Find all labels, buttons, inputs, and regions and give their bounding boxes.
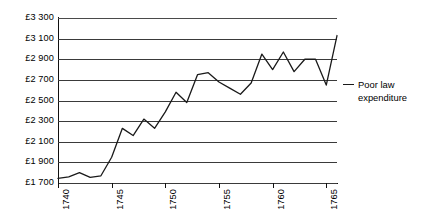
- x-axis-tick-mark: [165, 183, 166, 188]
- series-poor-law-expenditure: [58, 36, 337, 179]
- series-line-chart: [58, 18, 337, 183]
- chart-container: £3 300£3 100£2 900£2 700£2 500£2 300£2 1…: [0, 0, 423, 224]
- x-axis-tick-label: 1755: [223, 189, 232, 210]
- plot-area: [58, 18, 337, 183]
- x-axis-tick-mark: [58, 183, 59, 188]
- y-axis-tick-label: £2 300: [25, 117, 54, 126]
- x-axis-tick-mark: [219, 183, 220, 188]
- y-axis-labels: £3 300£3 100£2 900£2 700£2 500£2 300£2 1…: [0, 0, 54, 224]
- x-axis-tick-label: 1765: [330, 189, 339, 210]
- y-axis-tick-label: £2 100: [25, 137, 54, 146]
- chart-legend: Poor law expenditure: [343, 78, 407, 104]
- x-axis-tick-mark: [273, 183, 274, 188]
- x-axis-tick-label: 1750: [169, 189, 178, 210]
- legend-label-poor-law-expenditure: Poor law expenditure: [358, 78, 407, 104]
- y-axis-tick-label: £2 500: [25, 96, 54, 105]
- y-axis-tick-label: £1 900: [25, 158, 54, 167]
- x-axis-tick-label: 1740: [62, 189, 71, 210]
- x-axis-tick-mark: [112, 183, 113, 188]
- x-axis-tick-mark: [326, 183, 327, 188]
- legend-line-marker: [343, 84, 354, 85]
- y-axis-tick-label: £3 300: [25, 13, 54, 22]
- y-axis-tick-label: £3 100: [25, 34, 54, 43]
- y-axis-tick-label: £1 700: [25, 178, 54, 187]
- x-axis-tick-label: 1760: [277, 189, 286, 210]
- y-axis-tick-label: £2 700: [25, 75, 54, 84]
- gridline: [58, 183, 337, 184]
- y-axis-tick-label: £2 900: [25, 55, 54, 64]
- x-axis-tick-label: 1745: [116, 189, 125, 210]
